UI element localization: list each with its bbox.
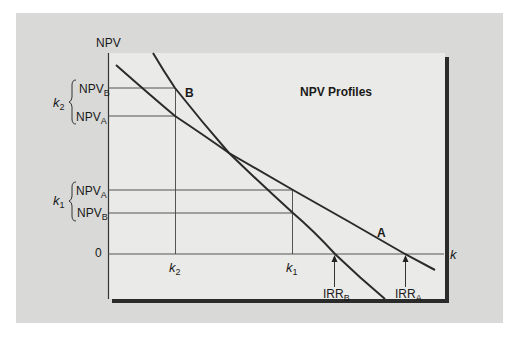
npv-profiles-chart: NPV NPV Profiles NPVB NPVA k2 NPVA NPVB … xyxy=(0,0,512,349)
k2-brace-label: k2 xyxy=(53,95,65,112)
x-axis-label: k xyxy=(450,247,458,262)
y-axis-label: NPV xyxy=(96,36,121,50)
k1-npvb-label: NPVB xyxy=(77,206,108,222)
k2-brace xyxy=(69,80,76,124)
k1-npva-label: NPVA xyxy=(76,184,107,200)
y-zero-label: 0 xyxy=(95,246,102,260)
k2-npva-label: NPVA xyxy=(76,110,107,126)
curve-b-label: B xyxy=(185,86,194,100)
chart-title: NPV Profiles xyxy=(300,85,372,99)
k2-npvb-label: NPVB xyxy=(79,82,110,98)
k1-brace-label: k1 xyxy=(53,193,65,210)
curve-a-label: A xyxy=(377,226,386,240)
inner-panel xyxy=(108,53,445,299)
k1-brace xyxy=(69,182,76,221)
